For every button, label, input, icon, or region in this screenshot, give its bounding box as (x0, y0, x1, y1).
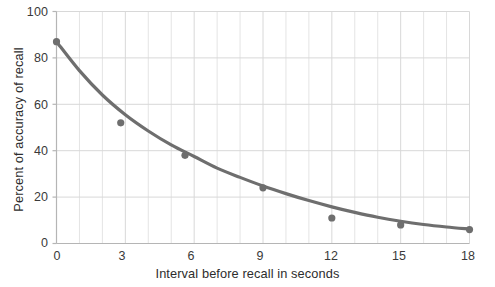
x-tick-label-3: 3 (102, 249, 142, 263)
data-point-2 (181, 152, 188, 159)
data-point-4 (328, 214, 335, 221)
x-tick-label-9: 9 (240, 249, 280, 263)
data-point-1 (117, 119, 124, 126)
y-axis-title: Percent of accuracy of recall (11, 30, 26, 230)
x-tick-label-15: 15 (379, 249, 419, 263)
y-tick-label-0: 0 (8, 236, 48, 250)
x-tick-label-0: 0 (37, 249, 77, 263)
recall-accuracy-chart: 100 80 60 40 20 0 0 3 6 9 12 15 18 Inter… (0, 0, 495, 287)
y-tick-label-100: 100 (8, 5, 48, 19)
data-point-0 (53, 38, 60, 45)
plot-area (0, 0, 495, 287)
x-axis-title: Interval before recall in seconds (0, 266, 495, 281)
x-tick-label-18: 18 (448, 249, 488, 263)
data-point-3 (259, 184, 266, 191)
axis-lines (53, 12, 470, 244)
major-vertical-gridlines (57, 12, 470, 244)
x-tick-label-6: 6 (171, 249, 211, 263)
data-point-6 (466, 226, 473, 233)
x-tick-label-12: 12 (311, 249, 351, 263)
data-point-5 (397, 221, 404, 228)
